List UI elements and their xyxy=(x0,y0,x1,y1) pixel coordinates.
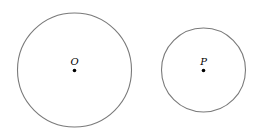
label-o: O xyxy=(70,56,78,67)
center-point-o xyxy=(73,69,77,73)
circle-o-group: O xyxy=(18,13,132,127)
center-point-p xyxy=(202,69,206,73)
diagram-canvas: O P xyxy=(0,0,258,137)
label-p: P xyxy=(199,56,207,67)
circle-p-group: P xyxy=(162,28,246,112)
